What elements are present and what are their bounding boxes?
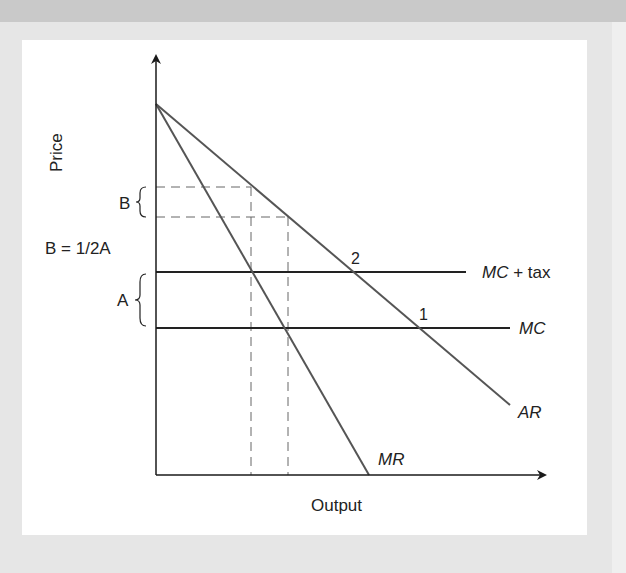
mr-curve [156,104,369,475]
y-axis-label: Price [47,133,66,172]
x-axis-label: Output [311,496,362,515]
ar-label: AR [517,403,542,422]
mc-plus-tax-label-mc: MC [482,263,509,282]
brace-b-icon [136,187,146,217]
brace-a-label: A [117,291,129,310]
mc-plus-tax-label: MC + tax [482,263,551,282]
ar-curve [156,104,510,405]
dashed-guides [156,187,288,475]
brace-a-icon [135,274,146,326]
mc-label: MC [519,319,546,338]
brace-b-label: B [119,194,130,213]
point-1-label: 1 [419,306,428,323]
point-2-label: 2 [351,250,360,267]
mc-plus-tax-label-tax: + tax [508,263,551,282]
mr-label: MR [378,450,404,469]
brace-relation-label: B = 1/2A [45,239,111,258]
monopoly-tax-diagram: Price Output B B = 1/2A A 2 1 MC + tax M… [0,0,626,573]
